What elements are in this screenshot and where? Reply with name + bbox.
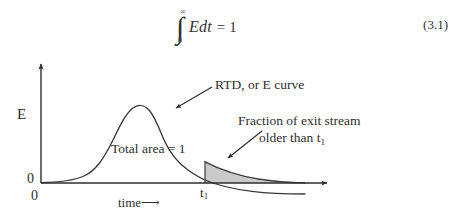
t1-tick-label: t1 [200, 186, 208, 202]
shaded-annotation-line2: older than t1 [259, 131, 325, 147]
y-axis-label: E [17, 106, 26, 123]
integral-symbol-group: ∞ ∫ 0 [175, 10, 188, 44]
rtd-curve-annotation: RTD, or E curve [215, 78, 304, 93]
chart-canvas [0, 46, 459, 223]
shaded-annotation-line2-subscript: 1 [320, 137, 325, 147]
figure-page: ∞ ∫ 0 Edt = 1 (3.1) [0, 0, 459, 223]
equation-right-side: 1 [229, 19, 237, 36]
integral-lower-limit: 0 [178, 37, 182, 45]
t1-tick-label-subscript: 1 [204, 191, 208, 201]
equation-expression: ∞ ∫ 0 Edt = 1 [175, 10, 237, 44]
total-area-annotation: Total area = 1 [111, 142, 186, 157]
equals-sign: = [217, 19, 225, 36]
shaded-tail-area [205, 162, 305, 183]
equation-block: ∞ ∫ 0 Edt = 1 (3.1) [0, 4, 459, 46]
y-origin-tick-label: 0 [27, 171, 34, 186]
shaded-annotation-line2-text: older than t [259, 130, 320, 145]
rtd-chart: E 0 0 time⟶ t1 Total area = 1 RTD, or E … [0, 46, 459, 223]
equation-number: (3.1) [423, 17, 448, 33]
shaded-annotation-line1: Fraction of exit stream [238, 114, 361, 129]
shaded-leader-arrow [228, 131, 262, 158]
x-axis-label: time [118, 195, 141, 210]
x-axis-label-group: time⟶ [118, 196, 159, 210]
x-axis-direction-arrow-icon: ⟶ [141, 195, 159, 210]
rtd-leader-arrow [176, 87, 212, 108]
integrand-expression: Edt [189, 18, 212, 36]
x-origin-tick-label: 0 [31, 188, 38, 203]
